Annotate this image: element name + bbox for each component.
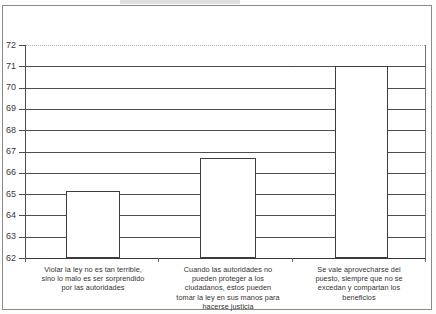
category-label-1-line-2: ciudadanos, éstos pueden [156, 283, 300, 292]
category-label-2: Se vale aprovecharse del puesto, siempre… [292, 265, 426, 302]
y-tick-66 [19, 173, 25, 174]
category-label-1-line-3: tomar la ley en sus manos para [156, 293, 300, 302]
y-axis-label-65: 65 [0, 190, 16, 199]
plot-right-edge [425, 45, 426, 259]
x-tick-0 [25, 258, 26, 262]
category-label-0-line-0: Violar la ley no es tan terrible, [22, 265, 164, 274]
y-tick-67 [19, 152, 25, 153]
scan-artifact [120, 0, 240, 4]
category-label-2-line-1: puesto, siempre que no se [292, 274, 426, 283]
x-tick-2 [292, 258, 293, 262]
y-tick-72 [19, 45, 25, 46]
y-tick-71 [19, 66, 25, 67]
bar-0[interactable] [66, 191, 120, 259]
category-label-1-line-4: hacerse justicia [156, 302, 300, 311]
y-axis-label-71: 71 [0, 62, 16, 71]
y-axis-label-64: 64 [0, 211, 16, 220]
y-tick-63 [19, 237, 25, 238]
chart-page: 72 71 70 69 68 67 66 65 64 63 62 Violar … [0, 0, 436, 314]
category-label-1-line-1: pueden proteger a los [156, 274, 300, 283]
y-tick-68 [19, 130, 25, 131]
y-axis-label-63: 63 [0, 232, 16, 241]
gridline-72 [25, 45, 425, 46]
y-axis-label-67: 67 [0, 147, 16, 156]
x-tick-3 [425, 258, 426, 262]
y-tick-69 [19, 109, 25, 110]
bar-2[interactable] [335, 66, 388, 258]
y-axis-label-68: 68 [0, 126, 16, 135]
y-tick-70 [19, 88, 25, 89]
category-label-2-line-0: Se vale aprovecharse del [292, 265, 426, 274]
y-tick-64 [19, 215, 25, 216]
category-label-2-line-2: excedan y compartan los [292, 283, 426, 292]
category-label-1: Cuando las autoridades no pueden protege… [156, 265, 300, 311]
category-label-0-line-1: sino lo malo es ser sorprendido [22, 274, 164, 283]
y-axis-label-72: 72 [0, 41, 16, 50]
y-axis-label-66: 66 [0, 168, 16, 177]
y-tick-65 [19, 194, 25, 195]
category-label-0-line-2: por las autoridades [22, 283, 164, 292]
y-axis-line [25, 45, 26, 259]
x-tick-1 [158, 258, 159, 262]
category-label-0: Violar la ley no es tan terrible, sino l… [22, 265, 164, 293]
y-axis-label-69: 69 [0, 104, 16, 113]
y-axis-label-62: 62 [0, 254, 16, 263]
category-label-1-line-0: Cuando las autoridades no [156, 265, 300, 274]
y-axis-label-70: 70 [0, 83, 16, 92]
category-label-2-line-3: beneficios [292, 293, 426, 302]
bar-1[interactable] [200, 158, 256, 258]
